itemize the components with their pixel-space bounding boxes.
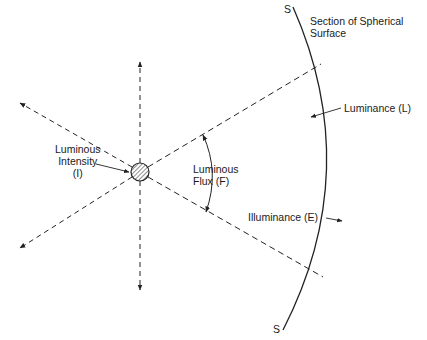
ray-lower-left xyxy=(20,177,132,248)
intensity-leader xyxy=(96,164,129,172)
label-surface-line2: Surface xyxy=(310,27,403,39)
illuminance-leader xyxy=(326,218,342,221)
label-intensity: Luminous Intensity (I) xyxy=(55,143,101,179)
label-flux-line1: Luminous xyxy=(193,163,239,175)
label-surface-line1: Section of Spherical xyxy=(310,15,403,27)
label-flux: Luminous Flux (F) xyxy=(193,163,239,187)
light-source-icon xyxy=(131,163,149,181)
label-flux-line2: Flux (F) xyxy=(193,175,239,187)
label-intensity-line2: Intensity xyxy=(55,155,101,167)
spherical-surface-arc xyxy=(283,7,327,330)
luminance-leader xyxy=(311,108,341,117)
label-luminance: Luminance (L) xyxy=(344,102,411,114)
label-intensity-line1: Luminous xyxy=(55,143,101,155)
label-surface: Section of Spherical Surface xyxy=(310,15,403,39)
ray-lower-right xyxy=(148,177,323,277)
label-s-top: S xyxy=(284,3,291,15)
label-s-bottom: S xyxy=(273,323,280,335)
ray-upper-right xyxy=(148,64,321,167)
label-illuminance: Illuminance (E) xyxy=(248,211,318,223)
label-intensity-line3: (I) xyxy=(55,167,101,179)
